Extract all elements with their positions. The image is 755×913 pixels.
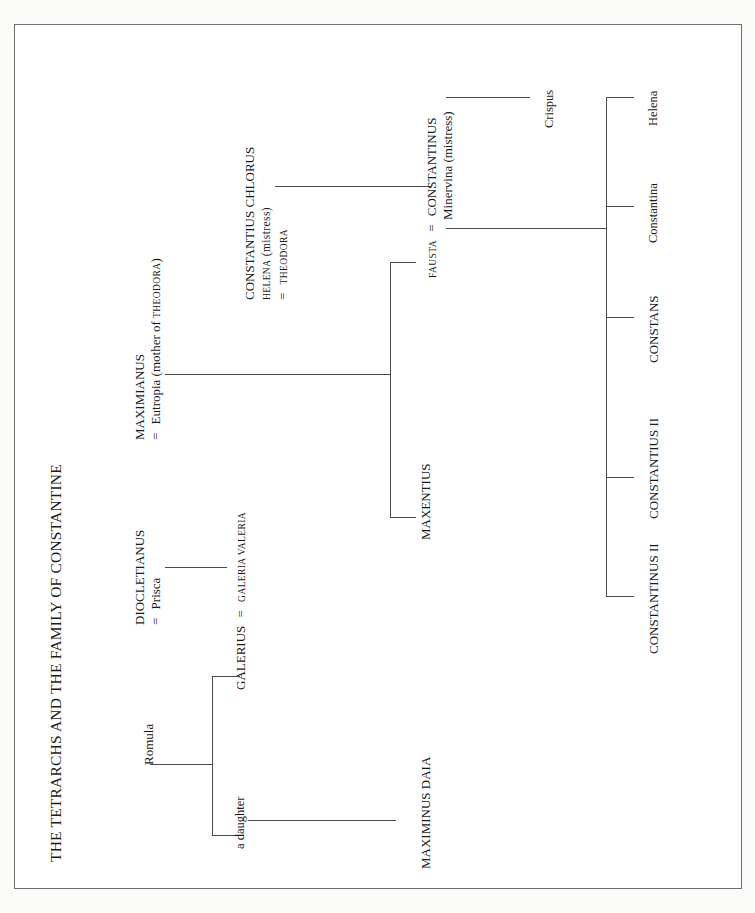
person-helena-child: Helena — [647, 91, 660, 126]
person-minervina: Minervina (mistress) — [440, 111, 456, 278]
person-theodora-ref: THEODORA — [152, 262, 162, 317]
marriage-sign-maximianus: = — [148, 433, 163, 440]
connector-child-constantius-ii — [606, 477, 634, 478]
connector-children-bar — [606, 97, 607, 596]
person-constans: CONSTANS — [647, 295, 661, 363]
connector-chlorus-to-constantinus — [275, 186, 430, 187]
couple-line-fausta: FAUSTA = CONSTANTINUS — [424, 111, 440, 278]
couple-maximianus-eutropia: MAXIMIANUS = Eutropia (mother of THEODOR… — [132, 258, 165, 440]
connector-romula-stem — [150, 764, 212, 765]
person-maxentius: MAXENTIUS — [419, 463, 433, 540]
connector-diocletianus-to-valeria — [165, 567, 227, 568]
connector-maximianus-bar — [390, 262, 391, 517]
connector-child-constans — [606, 317, 634, 318]
couple-constantius-chlorus: CONSTANTIUS CHLORUS HELENA (mistress) = … — [242, 147, 291, 300]
person-eutropia-main: Eutropia (mother of — [148, 318, 163, 430]
couple-chlorus-theodora: = THEODORA — [275, 147, 291, 300]
person-helena: HELENA — [262, 260, 272, 300]
marriage-sign-chlorus: = — [275, 293, 290, 300]
connector-child-helena — [606, 97, 634, 98]
person-maximinus-daia: MAXIMINUS DAIA — [419, 757, 433, 869]
connector-maximianus-to-fausta — [390, 262, 416, 263]
connector-child-constantinus-ii — [606, 596, 634, 597]
person-diocletianus: DIOCLETIANUS — [132, 530, 148, 625]
couple-fausta-constantinus: FAUSTA = CONSTANTINUS Minervina (mistres… — [424, 111, 457, 278]
person-constantius-ii: CONSTANTIUS II — [647, 418, 661, 519]
plate-border — [14, 24, 742, 889]
person-galerius: GALERIUS — [233, 626, 248, 690]
page-title: THE TETRARCHS AND THE FAMILY OF CONSTANT… — [48, 464, 64, 862]
connector-maximianus-stem — [165, 374, 390, 375]
person-a-daughter: a daughter — [234, 797, 247, 849]
connector-daughter-to-maximinus — [248, 820, 396, 821]
person-constantinus: CONSTANTINUS — [424, 118, 439, 217]
person-fausta: FAUSTA — [428, 240, 438, 278]
person-crispus: Crispus — [543, 90, 556, 128]
person-galerius-group: GALERIUS = GALERIA VALERIA — [234, 512, 248, 690]
couple-maximianus-line2: = Eutropia (mother of THEODORA) — [148, 258, 164, 440]
person-maximianus: MAXIMIANUS — [132, 258, 148, 440]
chart-page: THE TETRARCHS AND THE FAMILY OF CONSTANT… — [0, 0, 755, 913]
connector-romula-bar — [212, 676, 213, 835]
connector-maximianus-to-maxentius — [390, 517, 416, 518]
person-constantius-chlorus: CONSTANTIUS CHLORUS — [242, 147, 258, 300]
person-constantina: Constantina — [647, 183, 660, 243]
helena-qualifier: (mistress) — [260, 207, 272, 260]
couple-diocletianus-line2: = Prisca — [148, 530, 164, 625]
person-eutropia-tail: ) — [148, 258, 163, 262]
couple-diocletianus-prisca: DIOCLETIANUS = Prisca — [132, 530, 165, 625]
marriage-sign-fausta: = — [424, 220, 439, 237]
connector-minervina-to-crispus — [446, 97, 530, 98]
marriage-sign-diocletianus: = — [148, 618, 163, 625]
connector-child-constantina — [606, 206, 634, 207]
marriage-sign-galerius: = — [233, 605, 248, 622]
person-prisca: Prisca — [148, 578, 163, 615]
person-romula: Romula — [142, 724, 156, 765]
person-constantinus-ii: CONSTANTINUS II — [647, 543, 661, 654]
connector-constantinus-stem — [446, 228, 606, 229]
person-theodora: THEODORA — [279, 229, 289, 289]
person-helena-mistress: HELENA (mistress) — [258, 147, 274, 300]
person-galeria-valeria: GALERIA VALERIA — [237, 512, 247, 602]
